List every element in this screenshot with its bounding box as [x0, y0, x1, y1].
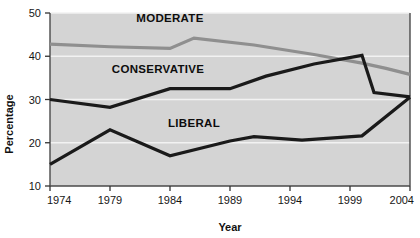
y-tick-label: 50 [29, 7, 41, 19]
y-tick-label: 10 [29, 180, 41, 192]
x-tick-label: 1979 [98, 194, 122, 206]
series-label-moderate: MODERATE [136, 12, 203, 24]
ideology-trend-line-chart: 1020304050 1974197919841989199419992004 … [0, 0, 420, 238]
x-tick-label: 1994 [278, 194, 302, 206]
x-axis-title: Year [218, 221, 242, 233]
y-tick-label: 30 [29, 94, 41, 106]
series-label-conservative: CONSERVATIVE [112, 63, 204, 75]
x-tick-label: 1999 [338, 194, 362, 206]
series-label-liberal: LIBERAL [168, 117, 220, 129]
x-tick-label: 1984 [158, 194, 182, 206]
x-tick-label: 1989 [218, 194, 242, 206]
y-tick-label: 40 [29, 50, 41, 62]
x-tick-label: 2004 [390, 194, 414, 206]
x-tick-label: 1974 [47, 194, 71, 206]
y-axis-title: Percentage [3, 94, 15, 153]
y-tick-label: 20 [29, 137, 41, 149]
chart-container: 1020304050 1974197919841989199419992004 … [0, 0, 420, 238]
